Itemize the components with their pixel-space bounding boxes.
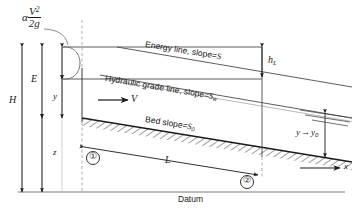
total-head-label: H xyxy=(9,95,16,105)
velocity-exponent: 2 xyxy=(36,5,40,14)
channel-bed xyxy=(82,118,352,170)
head-loss-subscript: L xyxy=(273,59,277,66)
normal-depth-label: y→y0 xyxy=(296,128,318,138)
elevation-label: z xyxy=(53,148,57,157)
dimension-L xyxy=(84,147,258,175)
x-axis-label: x xyxy=(344,162,348,171)
datum-label: Datum xyxy=(178,195,203,204)
hgl-slope-subscript: w xyxy=(212,95,217,102)
specific-energy-label: E xyxy=(31,74,37,84)
normal-depth-y0-subscript: 0 xyxy=(315,131,318,138)
diagram-canvas xyxy=(0,0,359,208)
approaches-arrow-icon: → xyxy=(300,127,311,137)
head-loss-label: hL xyxy=(268,55,277,66)
open-channel-flow-diagram: αV22g Energy line, slope=S hL Hydraulic … xyxy=(0,0,359,208)
depth-label: y xyxy=(53,92,57,101)
two-g-denominator: 2g xyxy=(28,18,41,29)
velocity-label: V xyxy=(131,94,137,104)
station-1-label: ① xyxy=(89,152,97,161)
velocity-symbol: V xyxy=(29,5,36,17)
velocity-head-label: αV22g xyxy=(22,6,41,29)
station-2-label: ② xyxy=(243,176,251,185)
length-label: L xyxy=(165,155,171,165)
